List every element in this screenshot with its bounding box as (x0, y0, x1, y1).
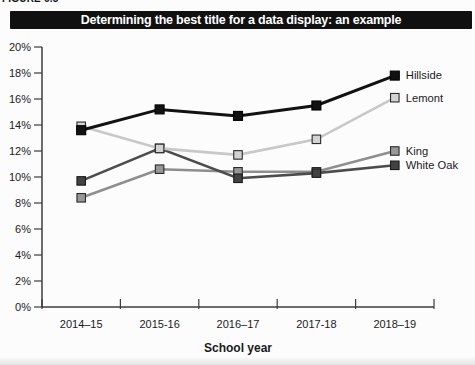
data-point-marker (391, 93, 400, 102)
y-tick-label: 14% (9, 119, 31, 131)
series-end-label: King (406, 145, 428, 157)
data-point-marker (234, 174, 243, 183)
data-point-marker (312, 101, 321, 110)
y-tick-label: 8% (15, 197, 31, 209)
data-point-marker (155, 105, 164, 114)
data-point-marker (234, 111, 243, 120)
y-tick-label: 10% (9, 171, 31, 183)
data-point-marker (77, 126, 86, 135)
figure-page: FIGURE 6.5 Determining the best title fo… (0, 0, 475, 365)
data-point-marker (155, 165, 164, 174)
y-tick-label: 12% (9, 145, 31, 157)
x-tick-label: 2014–15 (60, 318, 103, 330)
line-chart: 0%2%4%6%8%10%12%14%16%18%20%2014–152015-… (0, 0, 475, 365)
y-tick-label: 4% (15, 249, 31, 261)
series-hillside (77, 71, 400, 135)
x-tick-label: 2016–17 (217, 318, 260, 330)
data-point-marker (312, 135, 321, 144)
y-tick-label: 2% (15, 275, 31, 287)
data-point-marker (390, 71, 399, 80)
x-tick-label: 2015-16 (139, 318, 179, 330)
data-point-marker (234, 151, 243, 160)
data-point-marker (391, 161, 400, 170)
y-tick-label: 18% (9, 67, 31, 79)
data-point-marker (155, 144, 164, 153)
y-tick-label: 6% (15, 223, 31, 235)
y-tick-label: 0% (15, 301, 31, 313)
data-point-marker (77, 177, 86, 186)
y-tick-label: 20% (9, 41, 31, 53)
data-point-marker (77, 194, 86, 203)
x-tick-label: 2018–19 (373, 318, 416, 330)
x-axis-title: School year (204, 341, 272, 355)
x-tick-label: 2017-18 (296, 318, 336, 330)
page-edge-strip (0, 358, 475, 365)
series-end-label: Lemont (406, 92, 444, 104)
series-end-label: White Oak (406, 159, 459, 171)
data-point-marker (312, 169, 321, 178)
series-end-label: Hillside (406, 69, 442, 81)
series-lemont (77, 93, 399, 159)
y-tick-label: 16% (9, 93, 31, 105)
data-point-marker (391, 147, 400, 156)
series-line (81, 98, 395, 155)
